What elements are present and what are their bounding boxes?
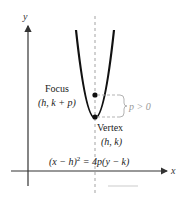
parabola-curve <box>76 30 114 118</box>
p-brace-icon <box>120 95 127 117</box>
vertex-point <box>92 114 97 119</box>
equation: (x − h)2 = 4p(y − k) <box>49 155 130 168</box>
equation-rhs: = 4p(y − k) <box>80 156 130 168</box>
focus-title: Focus <box>45 83 69 94</box>
focus-point <box>92 92 97 97</box>
p-condition-label: p > 0 <box>128 101 151 112</box>
focus-coords: (h, k + p) <box>38 97 77 109</box>
vertex-title: Vertex <box>97 122 123 133</box>
parabola-diagram: y x p > 0 Focus (h, k + p) Vertex (h, k)… <box>0 0 180 202</box>
equation-lhs: (x − h) <box>49 156 78 168</box>
y-axis-label: y <box>22 11 28 22</box>
y-axis: y <box>22 11 28 186</box>
vertex-coords: (h, k) <box>101 136 123 148</box>
x-axis-label: x <box>170 165 176 176</box>
